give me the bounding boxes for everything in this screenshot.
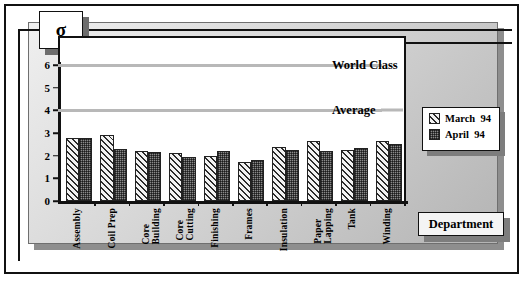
bar-april — [79, 138, 92, 201]
legend-swatch-march-icon — [429, 113, 440, 124]
y-tick-label: 1 — [32, 172, 50, 184]
bar-april — [251, 160, 264, 201]
x-tick-mark — [198, 201, 200, 206]
bar-april — [320, 151, 333, 201]
sigma-connector-right-top — [82, 29, 512, 31]
chart-frame: σ 0123456World ClassAverageAssemblyCoil … — [4, 4, 519, 274]
x-axis-title-box: Department — [418, 212, 504, 236]
y-tick-label: 5 — [32, 82, 50, 94]
sigma-connector-left — [18, 29, 40, 31]
y-tick-label: 0 — [32, 195, 50, 207]
reference-label-world-class: World Class — [332, 58, 398, 73]
bar-april — [182, 157, 195, 201]
x-axis-title: Department — [429, 217, 494, 232]
legend-item-april: April 94 — [429, 129, 494, 140]
legend-item-march: March 94 — [429, 113, 494, 124]
y-tick-mark — [53, 132, 59, 134]
bar-april — [217, 151, 230, 201]
y-tick-mark — [53, 87, 59, 89]
bar-march — [238, 162, 251, 201]
y-tick-mark — [53, 200, 59, 202]
bar-march — [66, 138, 79, 201]
legend-label-march: March 94 — [445, 113, 491, 124]
x-category-label: Assembly — [73, 208, 83, 249]
legend-label-april: April 94 — [445, 129, 485, 140]
x-category-label: Coil Prep — [108, 208, 118, 248]
y-tick-label: 4 — [32, 104, 50, 116]
x-category-label: Finishing — [211, 208, 221, 248]
bar-march — [169, 153, 182, 201]
bar-march — [100, 135, 113, 201]
x-tick-mark — [129, 201, 131, 206]
x-tick-mark — [370, 201, 372, 206]
x-tick-mark — [404, 201, 406, 206]
x-category-label: Winding — [383, 208, 393, 245]
bar-april — [354, 148, 367, 201]
chart-legend: March 94 April 94 — [422, 107, 500, 151]
bar-march — [272, 147, 285, 201]
y-tick-label: 3 — [32, 127, 50, 139]
y-tick-label: 2 — [32, 150, 50, 162]
x-tick-mark — [301, 201, 303, 206]
bar-march — [307, 141, 320, 201]
x-category-label: Tank — [348, 208, 358, 230]
x-category-label: Insulation — [280, 208, 290, 251]
legend-swatch-april-icon — [429, 129, 440, 140]
x-tick-mark — [266, 201, 268, 206]
bar-april — [389, 144, 402, 201]
x-tick-mark — [163, 201, 165, 206]
bar-march — [376, 141, 389, 201]
x-tick-mark — [94, 201, 96, 206]
x-tick-mark — [335, 201, 337, 206]
y-tick-mark — [53, 178, 59, 180]
bar-march — [135, 151, 148, 201]
y-tick-mark — [53, 155, 59, 157]
x-tick-mark — [232, 201, 234, 206]
reference-line-average-stub — [381, 109, 403, 112]
y-tick-label: 6 — [32, 59, 50, 71]
bar-march — [341, 150, 354, 201]
x-category-label: Core Building — [142, 208, 162, 244]
x-category-label: Frames — [245, 208, 255, 240]
bar-april — [286, 150, 299, 201]
bar-march — [204, 156, 217, 201]
sigma-connector-down — [18, 29, 20, 261]
x-category-label: Paper Lapping — [314, 208, 334, 244]
bar-april — [148, 152, 161, 201]
reference-label-average: Average — [332, 103, 376, 118]
x-category-label: Core Cutting — [176, 208, 196, 241]
bar-april — [114, 149, 127, 201]
